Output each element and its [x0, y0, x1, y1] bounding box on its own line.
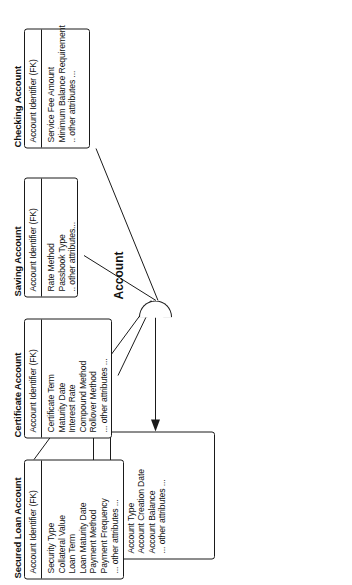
attribute: Account Balance: [147, 437, 158, 553]
attribute: Compound Method: [78, 324, 89, 432]
diagram-canvas: Account Account Identifier Account Owner…: [0, 0, 352, 585]
attribute: .. other attributes ...: [67, 34, 78, 142]
half-disc-shape: [139, 300, 172, 317]
attribute: Passbook Type: [57, 183, 68, 291]
attribute: .. other attributes...: [67, 183, 78, 291]
attribute: ... other attributes ...: [110, 465, 121, 573]
entity-secured-loan-account-title: Secured Loan Account: [12, 477, 23, 578]
attribute: ... other attributes ...: [157, 437, 168, 553]
attribute: Interest Rate: [67, 324, 78, 432]
entity-certificate-account-attributes: Certificate Term Maturity Date Interest …: [42, 319, 114, 437]
entity-saving-account-title: Saving Account: [12, 226, 23, 296]
attribute: Rate Method: [46, 183, 57, 291]
supertype-arrowhead: [151, 419, 160, 431]
entity-secured-loan-account-attributes: Security Type Collateral Value Loan Term…: [42, 460, 124, 578]
entity-certificate-account-primary-key: Account Identifier (FK): [25, 319, 42, 437]
entity-secured-loan-account[interactable]: Secured Loan Account Account Identifier …: [24, 459, 124, 579]
entity-saving-account-primary-key: Account Identifier (FK): [25, 178, 42, 296]
attribute: ... other attributes ...: [99, 324, 110, 432]
entity-certificate-account[interactable]: Certificate Account Account Identifier (…: [24, 318, 112, 438]
subtype-discriminator-label: Account: [112, 251, 126, 299]
entity-secured-loan-account-primary-key: Account Identifier (FK): [25, 460, 42, 578]
entity-saving-account-attributes: Rate Method Passbook Type .. other attri…: [42, 178, 82, 296]
entity-saving-account[interactable]: Saving Account Account Identifier (FK) R…: [24, 177, 78, 297]
attribute: Collateral Value: [57, 465, 68, 573]
attribute: Account Type: [126, 437, 137, 553]
attribute: Security Type: [46, 465, 57, 573]
entity-certificate-account-title: Certificate Account: [12, 352, 23, 437]
attribute: Account Creation Date: [136, 437, 147, 553]
subtype-discriminator-symbol: [139, 300, 172, 317]
attribute: Loan Term: [67, 465, 78, 573]
attribute: Rollover Method: [88, 324, 99, 432]
entity-checking-account-primary-key: Account Identifier (FK): [25, 29, 42, 147]
attribute: Payment Frequency: [99, 465, 110, 573]
attribute: Maturity Date: [57, 324, 68, 432]
attribute: Minimum Balance Requirement: [57, 34, 68, 142]
connector-checking: [96, 148, 158, 300]
entity-checking-account[interactable]: Checking Account Account Identifier (FK)…: [24, 28, 90, 148]
attribute: Payment Method: [88, 465, 99, 573]
attribute: Certificate Term: [46, 324, 57, 432]
entity-checking-account-attributes: Service Fee Amount Minimum Balance Requi…: [42, 29, 89, 147]
attribute: Loan Maturity Date: [78, 465, 89, 573]
attribute: Service Fee Amount: [46, 34, 57, 142]
entity-checking-account-title: Checking Account: [12, 66, 23, 147]
entity-account-attributes: Account Owner Identifier Account Type Ac…: [111, 432, 214, 558]
